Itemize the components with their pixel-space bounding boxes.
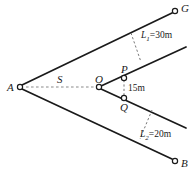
distance-label-PQ: 15m <box>128 84 145 94</box>
point-marker-A <box>17 84 22 89</box>
point-label-Q: Q <box>120 102 128 113</box>
distance-label-S: S <box>57 74 63 85</box>
point-label-B: B <box>181 158 188 169</box>
point-label-O: O <box>95 74 103 85</box>
ray-A-to-B <box>22 89 172 159</box>
point-marker-Q <box>121 95 126 100</box>
geometry-diagram: A G B O P Q S L1=30m L2=20m 15m <box>0 0 196 173</box>
point-marker-P <box>121 75 126 80</box>
point-marker-O <box>96 84 101 89</box>
distance-label-L1-value: 30m <box>155 30 172 40</box>
distance-label-L1: L1=30m <box>141 31 172 43</box>
diagram-canvas <box>0 0 196 173</box>
ray-O-through-Q <box>101 89 186 128</box>
point-marker-G <box>172 8 177 13</box>
point-label-A: A <box>7 82 14 93</box>
ray-O-through-P <box>101 47 186 86</box>
distance-label-L2: L2=20m <box>140 130 171 142</box>
distance-label-L2-value: 20m <box>154 129 171 139</box>
point-marker-B <box>172 158 177 163</box>
point-label-P: P <box>121 64 128 75</box>
measure-line-L1 <box>131 33 141 62</box>
point-label-G: G <box>181 3 189 14</box>
